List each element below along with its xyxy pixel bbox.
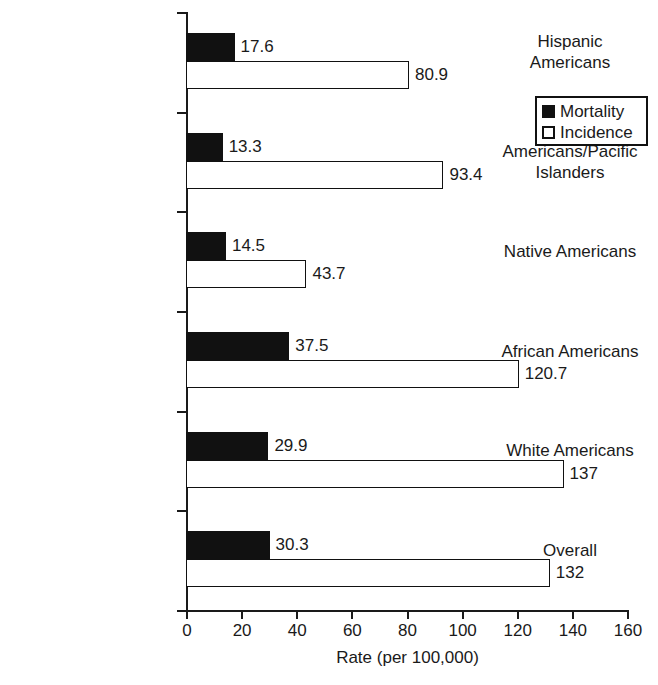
bar-value-label: 30.3 bbox=[276, 531, 309, 559]
bar-value-label: 29.9 bbox=[274, 432, 307, 460]
legend-label-mortality: Mortality bbox=[560, 102, 624, 121]
x-axis-tick-label: 120 bbox=[488, 621, 548, 641]
bar-value-label: 120.7 bbox=[525, 360, 568, 388]
legend-item-mortality: Mortality bbox=[542, 101, 642, 122]
chart-container: HispanicAmericansAsianAmericans/PacificI… bbox=[0, 0, 658, 685]
x-axis-tick bbox=[296, 610, 298, 619]
chart-legend: Mortality Incidence bbox=[535, 96, 648, 146]
bar-incidence-5 bbox=[186, 559, 550, 587]
bar-mortality-5 bbox=[186, 531, 270, 559]
bar-incidence-2 bbox=[186, 260, 306, 288]
x-axis-tick bbox=[517, 610, 519, 619]
bar-incidence-3 bbox=[186, 360, 519, 388]
y-axis-tick bbox=[177, 12, 186, 14]
x-axis-tick-label: 160 bbox=[598, 621, 658, 641]
x-axis-tick-label: 60 bbox=[322, 621, 382, 641]
y-axis-tick bbox=[177, 411, 186, 413]
bar-value-label: 93.4 bbox=[449, 161, 482, 189]
x-axis-tick bbox=[572, 610, 574, 619]
bar-value-label: 17.6 bbox=[241, 33, 274, 61]
y-axis-tick bbox=[177, 610, 186, 612]
legend-item-incidence: Incidence bbox=[542, 122, 642, 143]
bar-value-label: 137 bbox=[570, 460, 598, 488]
y-axis-tick bbox=[177, 112, 186, 114]
x-axis-tick-label: 0 bbox=[157, 621, 217, 641]
y-axis-tick bbox=[177, 510, 186, 512]
bar-value-label: 37.5 bbox=[295, 332, 328, 360]
legend-label-incidence: Incidence bbox=[560, 123, 633, 142]
y-axis-tick bbox=[177, 211, 186, 213]
bar-mortality-2 bbox=[186, 232, 226, 260]
bar-value-label: 43.7 bbox=[312, 260, 345, 288]
bar-incidence-0 bbox=[186, 61, 409, 89]
bar-mortality-0 bbox=[186, 33, 235, 61]
bar-mortality-3 bbox=[186, 332, 289, 360]
legend-swatch-hollow-icon bbox=[542, 126, 555, 139]
x-axis-tick-label: 80 bbox=[378, 621, 438, 641]
bar-value-label: 13.3 bbox=[229, 133, 262, 161]
x-axis-tick bbox=[462, 610, 464, 619]
bar-incidence-1 bbox=[186, 161, 443, 189]
bar-incidence-4 bbox=[186, 460, 564, 488]
bar-value-label: 132 bbox=[556, 559, 584, 587]
x-axis-tick bbox=[627, 610, 629, 619]
x-axis-title: Rate (per 100,000) bbox=[186, 648, 629, 668]
x-axis-tick-label: 20 bbox=[212, 621, 272, 641]
y-axis-tick bbox=[177, 311, 186, 313]
bar-value-label: 80.9 bbox=[415, 61, 448, 89]
x-axis-tick-label: 40 bbox=[267, 621, 327, 641]
x-axis-tick bbox=[186, 610, 188, 619]
bar-value-label: 14.5 bbox=[232, 232, 265, 260]
legend-swatch-filled-icon bbox=[542, 105, 555, 118]
x-axis-tick bbox=[407, 610, 409, 619]
x-axis-tick bbox=[351, 610, 353, 619]
x-axis-tick-label: 140 bbox=[543, 621, 603, 641]
bar-mortality-4 bbox=[186, 432, 268, 460]
x-axis-tick-label: 100 bbox=[433, 621, 493, 641]
x-axis-tick bbox=[241, 610, 243, 619]
bar-mortality-1 bbox=[186, 133, 223, 161]
